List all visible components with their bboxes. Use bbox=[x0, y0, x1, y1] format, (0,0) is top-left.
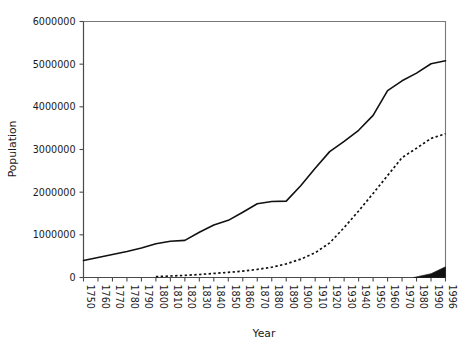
y-tick-label: 0 bbox=[69, 272, 75, 283]
x-tick-label: 1910 bbox=[317, 285, 328, 309]
series-wedge-filled bbox=[414, 267, 446, 278]
x-tick-label: 1950 bbox=[375, 285, 386, 309]
series-group bbox=[84, 61, 446, 278]
y-axis-tick-labels: 0100000020000003000000400000050000006000… bbox=[33, 16, 76, 283]
x-tick-label: 1780 bbox=[129, 285, 140, 309]
y-tick-label: 3000000 bbox=[33, 144, 76, 155]
y-axis-title: Population bbox=[6, 121, 19, 178]
x-tick-label: 1930 bbox=[346, 285, 357, 309]
x-tick-label: 1960 bbox=[389, 285, 400, 309]
y-tick-label: 5000000 bbox=[33, 59, 76, 70]
y-tick-label: 6000000 bbox=[33, 16, 76, 27]
x-tick-label: 1900 bbox=[302, 285, 313, 309]
x-tick-label: 1830 bbox=[201, 285, 212, 309]
x-tick-label: 1890 bbox=[288, 285, 299, 309]
y-tick-label: 4000000 bbox=[33, 101, 76, 112]
population-chart: 0100000020000003000000400000050000006000… bbox=[0, 0, 458, 347]
x-tick-label: 1770 bbox=[114, 285, 125, 309]
x-tick-label: 1750 bbox=[85, 285, 96, 309]
x-tick-label: 1840 bbox=[215, 285, 226, 309]
x-tick-label: 1996 bbox=[447, 285, 458, 309]
chart-svg: 0100000020000003000000400000050000006000… bbox=[0, 0, 458, 347]
x-tick-label: 1990 bbox=[433, 285, 444, 309]
y-tick-label: 1000000 bbox=[33, 229, 76, 240]
x-tick-label: 1760 bbox=[100, 285, 111, 309]
series-solid-line bbox=[84, 61, 446, 261]
x-tick-label: 1820 bbox=[186, 285, 197, 309]
x-tick-label: 1800 bbox=[158, 285, 169, 309]
plot-frame-border bbox=[84, 22, 446, 278]
x-tick-label: 1790 bbox=[143, 285, 154, 309]
x-tick-label: 1860 bbox=[244, 285, 255, 309]
x-tick-label: 1880 bbox=[273, 285, 284, 309]
plot-axis-lines bbox=[84, 22, 446, 278]
x-tick-label: 1850 bbox=[230, 285, 241, 309]
x-tick-label: 1940 bbox=[360, 285, 371, 309]
x-tick-label: 1970 bbox=[404, 285, 415, 309]
x-tick-label: 1980 bbox=[418, 285, 429, 309]
x-tick-label: 1870 bbox=[259, 285, 270, 309]
x-tick-label: 1920 bbox=[331, 285, 342, 309]
plot-frame bbox=[84, 22, 446, 278]
x-axis-tick-labels: 1750176017701780179018001810182018301840… bbox=[85, 285, 458, 309]
y-tick-label: 2000000 bbox=[33, 187, 76, 198]
x-axis-title: Year bbox=[252, 327, 276, 340]
series-dotted-line bbox=[156, 134, 446, 277]
x-tick-label: 1810 bbox=[172, 285, 183, 309]
